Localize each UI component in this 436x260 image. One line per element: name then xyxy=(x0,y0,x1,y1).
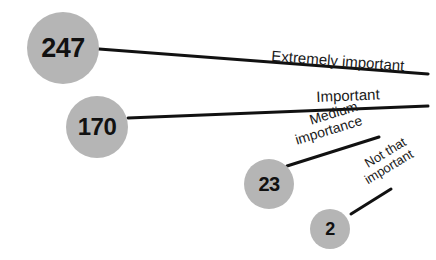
leader-line-not-that-important xyxy=(351,189,391,214)
bubble-value-extremely-important: 247 xyxy=(41,35,85,62)
bubble-value-not-that-important: 2 xyxy=(325,220,335,238)
bubble-value-medium-importance: 23 xyxy=(258,174,279,194)
leader-line-important xyxy=(128,106,428,118)
bubble-chart: 247 170 23 2 Extremely important Importa… xyxy=(0,0,436,260)
bubble-value-important: 170 xyxy=(78,115,117,139)
